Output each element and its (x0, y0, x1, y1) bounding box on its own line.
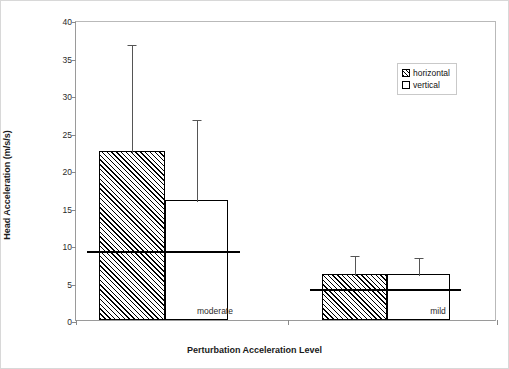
error-bar-horizontal-mild (355, 256, 356, 276)
y-tick-mark (72, 22, 76, 23)
y-axis-title: Head Acceleration (m/s/s) (2, 35, 12, 335)
x-tick-mark (288, 320, 289, 325)
reference-line-moderate (87, 251, 240, 253)
bar-vertical-moderate (165, 200, 228, 320)
y-tick-label: 25 (63, 130, 72, 139)
legend-swatch-white-icon (402, 81, 410, 89)
error-bar-vertical-mild (419, 258, 420, 277)
y-tick-label: 20 (63, 168, 72, 177)
y-tick-label: 35 (63, 55, 72, 64)
error-bar-cap-vertical-moderate (192, 120, 201, 121)
y-tick-mark (72, 172, 76, 173)
y-tick-label: 40 (63, 18, 72, 27)
y-tick-label: 15 (63, 205, 72, 214)
y-tick-mark (72, 60, 76, 61)
y-tick-mark (72, 210, 76, 211)
y-tick-label: 30 (63, 93, 72, 102)
y-tick-mark (72, 285, 76, 286)
reference-line-mild (310, 289, 461, 291)
x-category-label-moderate: moderate (197, 306, 233, 316)
y-tick-mark (72, 135, 76, 136)
error-bar-cap-vertical-mild (414, 258, 423, 259)
error-bar-vertical-moderate (197, 120, 198, 202)
error-bar-cap-horizontal-mild (350, 256, 359, 257)
legend-label: vertical (413, 80, 440, 90)
y-tick-mark (72, 97, 76, 98)
x-tick-mark (497, 320, 498, 325)
y-tick-label: 10 (63, 243, 72, 252)
bar-chart: Head Acceleration (m/s/s) 05101520253035… (0, 0, 509, 369)
x-tick-mark (76, 320, 77, 325)
legend-swatch-hatched-icon (402, 69, 410, 77)
error-bar-cap-horizontal-moderate (128, 45, 137, 46)
x-category-label-mild: mild (430, 306, 446, 316)
legend-item-horizontal: horizontal (402, 67, 450, 79)
legend-label: horizontal (413, 68, 450, 78)
legend-item-vertical: vertical (402, 79, 450, 91)
x-axis-title: Perturbation Acceleration Level (1, 345, 508, 355)
bar-horizontal-mild (322, 274, 387, 321)
legend: horizontal vertical (397, 63, 457, 95)
bar-horizontal-moderate (99, 151, 165, 320)
error-bar-horizontal-moderate (132, 45, 133, 154)
y-tick-mark (72, 247, 76, 248)
